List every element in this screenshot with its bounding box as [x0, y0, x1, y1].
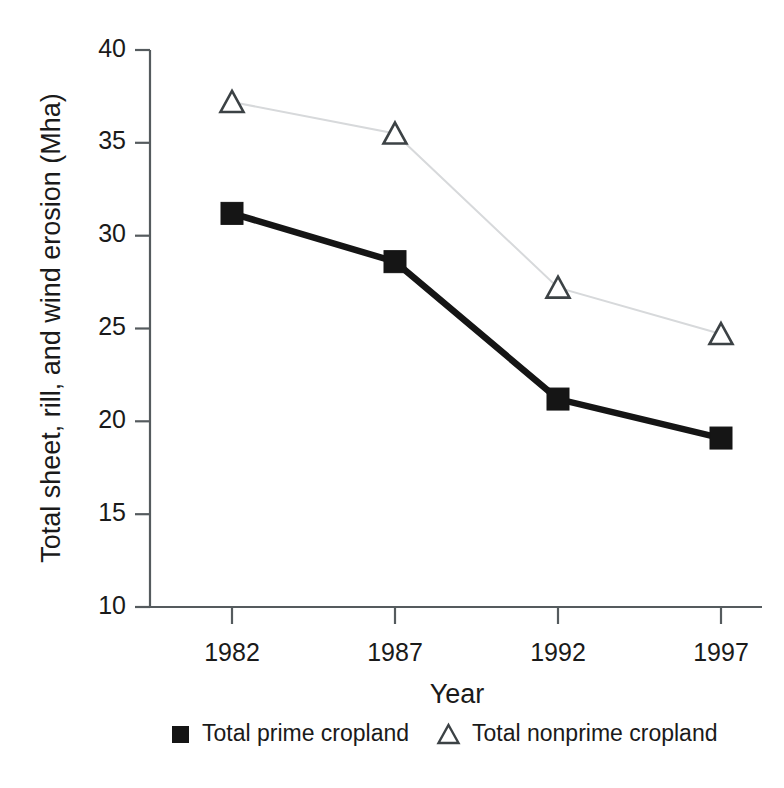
x-tick-label-1987: 1987: [367, 638, 423, 666]
y-tick-label-40: 40: [98, 34, 126, 62]
y-tick-label-10: 10: [98, 591, 126, 619]
x-tick-label-1997: 1997: [693, 638, 749, 666]
series-total-nonprime-cropland: [221, 91, 733, 344]
data-point: [384, 123, 407, 144]
series-total-prime-cropland: [221, 202, 732, 449]
chart-figure: 40 35 30 25 20 15 10 1982 1987 1992 1997…: [0, 0, 784, 788]
legend-label-prime: Total prime cropland: [202, 720, 409, 746]
data-point: [221, 91, 244, 112]
x-axis-title: Year: [430, 679, 485, 709]
y-tick-label-20: 20: [98, 405, 126, 433]
y-tick-label-15: 15: [98, 498, 126, 526]
series-nonprime-markers: [221, 91, 733, 344]
data-point: [710, 323, 733, 344]
y-tick-label-25: 25: [98, 312, 126, 340]
series-nonprime-line: [232, 102, 721, 334]
y-tick-label-35: 35: [98, 126, 126, 154]
series-prime-markers: [221, 202, 732, 449]
series-prime-line: [232, 213, 721, 438]
legend-label-nonprime: Total nonprime cropland: [472, 720, 717, 746]
data-point: [221, 202, 243, 224]
legend-marker-open-triangle-icon: [439, 725, 459, 743]
data-point: [710, 427, 732, 449]
line-chart: 40 35 30 25 20 15 10 1982 1987 1992 1997…: [0, 0, 784, 788]
chart-legend: Total prime cropland Total nonprime crop…: [172, 720, 717, 746]
y-axis-title: Total sheet, rill, and wind erosion (Mha…: [36, 93, 66, 563]
data-point: [547, 388, 569, 410]
data-point: [384, 251, 406, 273]
x-tick-label-1992: 1992: [530, 638, 586, 666]
y-tick-label-30: 30: [98, 219, 126, 247]
x-tick-label-1982: 1982: [204, 638, 260, 666]
legend-marker-filled-square-icon: [172, 726, 189, 743]
